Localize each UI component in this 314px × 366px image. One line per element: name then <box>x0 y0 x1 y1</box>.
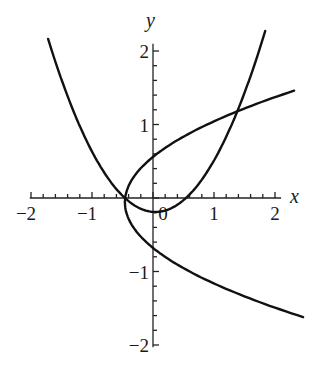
x-tick-label: 1 <box>209 203 219 224</box>
chart-plot: −2−1012 21−1−2 x y <box>0 0 314 366</box>
upward-parabola-curve <box>48 31 265 212</box>
x-axis-tick-labels: −2−1012 <box>16 203 280 224</box>
x-tick-label: 2 <box>270 203 280 224</box>
x-axis-ticks <box>31 192 275 198</box>
x-tick-label: −1 <box>77 203 97 224</box>
y-tick-label: −1 <box>129 262 149 283</box>
y-tick-label: 2 <box>140 41 150 62</box>
y-axis-ticks <box>153 51 159 345</box>
y-tick-label: −2 <box>129 335 149 356</box>
x-axis-label: x <box>289 185 299 207</box>
x-tick-label: −2 <box>16 203 36 224</box>
y-axis-label: y <box>144 9 155 32</box>
x-tick-label: 0 <box>158 203 168 224</box>
y-tick-label: 1 <box>140 115 150 136</box>
curves <box>48 31 303 317</box>
